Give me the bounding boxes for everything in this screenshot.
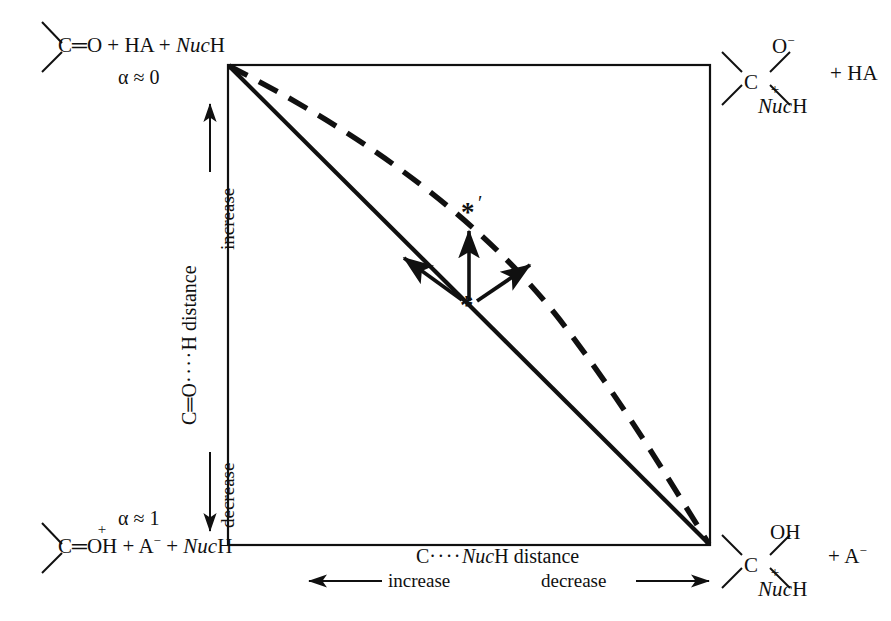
- br-hydroxyl: OH: [770, 521, 801, 543]
- tr-oxygen: O: [772, 34, 787, 58]
- bl-a-charge: −: [154, 533, 161, 548]
- alpha-top-left: α ≈ 0: [118, 66, 159, 89]
- shifted-transition-state-prime: ′: [478, 193, 482, 213]
- bl-nuc-h: H: [217, 534, 232, 558]
- br-rest-group: + A−: [828, 545, 867, 567]
- more-oferrall-jencks-diagram: C═O + HA + NucH α ≈ 0 C O− +NucH + HA C═…: [0, 0, 891, 621]
- tl-double-bond: ═: [72, 33, 87, 57]
- tl-nucleophile: Nuc: [176, 33, 210, 57]
- y-title-c: C: [178, 412, 200, 425]
- tr-rest: + HA: [830, 62, 878, 84]
- shifted-transition-state-marker: *: [461, 199, 475, 226]
- tl-rest: + HA +: [107, 33, 170, 57]
- y-title-o: O: [178, 383, 200, 397]
- species-bottom-left: C═+OH + A− + NucH: [58, 534, 232, 559]
- tr-carbon: C: [744, 70, 758, 94]
- y-title-word: distance: [178, 265, 200, 331]
- y-title-bond: ═: [178, 397, 200, 411]
- species-bottom-right: C: [744, 553, 758, 578]
- corner-structure-bonds: [42, 22, 790, 588]
- tr-nuc-charge: +: [771, 82, 780, 98]
- x-title-h: H: [494, 545, 508, 567]
- x-title-dots: ····: [429, 545, 462, 567]
- species-top-right: C: [744, 70, 758, 95]
- y-title-h: H: [178, 336, 200, 350]
- br-a-charge: −: [859, 543, 866, 558]
- bl-oxygen-charge: +: [98, 521, 106, 538]
- x-axis-decrease-label: decrease: [541, 570, 606, 592]
- species-top-left: C═O + HA + NucH: [58, 33, 225, 58]
- y-title-dots: ····: [178, 350, 200, 383]
- br-nuc-h: H: [792, 577, 807, 601]
- tr-nuc-group: +NucH: [758, 95, 807, 117]
- bl-nucleophile: Nuc: [183, 534, 217, 558]
- bl-carbon: C: [58, 534, 72, 558]
- parallel-motion-arrow: [404, 258, 462, 300]
- bl-plus2: +: [166, 534, 178, 558]
- bl-double-bond: ═: [72, 534, 87, 558]
- perpendicular-motion-arrow: [477, 265, 530, 301]
- tl-nuc-h: H: [210, 33, 225, 57]
- bl-rest: + A: [123, 534, 154, 558]
- tl-oxygen: O: [87, 33, 102, 57]
- x-title-nucleophile: Nuc: [462, 545, 494, 567]
- br-nuc-group: +NucH: [758, 578, 807, 600]
- br-rest: + A: [828, 544, 859, 568]
- y-axis-increase-label: increase: [217, 188, 239, 250]
- tr-oxygen-charge: −: [787, 33, 794, 48]
- transition-state-marker: *: [460, 292, 474, 319]
- tr-nuc-h: H: [792, 94, 807, 118]
- y-axis-decrease-label: decrease: [217, 463, 239, 528]
- x-axis-increase-label: increase: [388, 570, 450, 592]
- x-axis-title: C····NucH distance: [416, 545, 579, 568]
- br-carbon: C: [744, 553, 758, 577]
- br-nuc-charge: +: [771, 565, 780, 581]
- alpha-bottom-left: α ≈ 1: [118, 507, 159, 530]
- y-axis-title: C═O····H distance: [178, 265, 201, 425]
- x-title-word: distance: [514, 545, 580, 567]
- tr-oxygen-group: O−: [772, 35, 795, 57]
- x-title-c: C: [416, 545, 429, 567]
- tl-carbon: C: [58, 33, 72, 57]
